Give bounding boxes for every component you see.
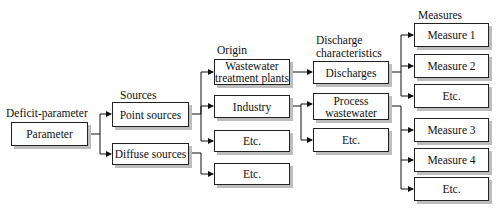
- node-label: Measure 2: [427, 60, 475, 72]
- node-discharges: Discharges: [313, 61, 389, 84]
- flow-diagram: Deficit-parameter Sources Origin Dischar…: [0, 0, 502, 216]
- node-wastewater-treatment-plants: Wastewater treatment plants: [214, 59, 290, 85]
- node-measure-4: Measure 4: [414, 148, 489, 172]
- node-label-line1: Process: [333, 95, 368, 107]
- node-measure-2: Measure 2: [414, 54, 489, 78]
- node-measure-1: Measure 1: [414, 23, 489, 47]
- node-label: Etc.: [442, 90, 460, 102]
- node-label: Diffuse sources: [115, 148, 187, 160]
- header-origin: Origin: [217, 44, 247, 56]
- node-measure-3: Measure 3: [414, 118, 489, 142]
- header-discharge-line1: Discharge: [316, 34, 362, 46]
- node-origin-etc-point: Etc.: [214, 130, 290, 152]
- node-label: Etc.: [342, 134, 360, 146]
- node-label-line1: Wastewater: [225, 60, 278, 72]
- node-discharge-etc: Etc.: [313, 128, 389, 152]
- node-label: Measure 4: [427, 154, 475, 166]
- header-deficit-parameter: Deficit-parameter: [6, 107, 88, 119]
- node-parameter: Parameter: [11, 122, 88, 146]
- node-label: Point sources: [120, 109, 182, 121]
- node-label: Parameter: [26, 128, 73, 140]
- node-point-sources: Point sources: [112, 102, 189, 127]
- node-label: Etc.: [243, 168, 261, 180]
- node-measure-etc-b: Etc.: [414, 177, 489, 201]
- header-discharge-line2: characteristics: [316, 47, 382, 59]
- node-origin-etc-diffuse: Etc.: [214, 163, 290, 185]
- node-industry: Industry: [214, 95, 290, 118]
- node-label: Discharges: [326, 67, 377, 79]
- node-label: Etc.: [442, 183, 460, 195]
- node-label: Industry: [233, 101, 271, 113]
- node-label: Etc.: [243, 135, 261, 147]
- node-label-line2: treatment plants: [215, 72, 289, 84]
- node-measure-etc-a: Etc.: [414, 84, 489, 108]
- node-label-line2: wastewater: [325, 107, 377, 119]
- node-label: Measure 1: [427, 29, 475, 41]
- node-process-wastewater: Process wastewater: [313, 93, 389, 120]
- header-measures: Measures: [418, 9, 462, 21]
- node-label: Measure 3: [427, 124, 475, 136]
- node-diffuse-sources: Diffuse sources: [112, 143, 189, 165]
- header-sources: Sources: [120, 89, 156, 101]
